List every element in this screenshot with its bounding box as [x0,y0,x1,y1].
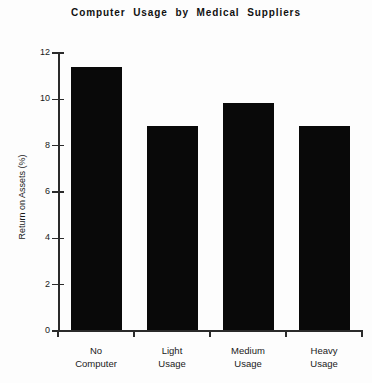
bar [223,103,274,330]
x-tick-label-line: Usage [134,358,210,371]
x-axis-line [52,330,362,332]
x-tick-label-line: Usage [210,358,286,371]
x-tick-label-line: No [58,345,134,358]
y-tick-label: 4 [10,233,50,242]
x-tick-label-group: NoComputerLightUsageMediumUsageHeavyUsag… [58,345,362,381]
y-tick-label: 10 [10,94,50,103]
x-tick [133,330,135,337]
y-tick [52,284,64,286]
y-tick-label: 0 [10,326,50,335]
y-tick [52,238,64,240]
bar [299,126,350,330]
x-tick [285,330,287,337]
y-tick [52,145,64,147]
x-tick-label-line: Heavy [286,345,362,358]
x-tick [209,330,211,337]
x-tick-label: NoComputer [58,345,134,370]
bar [147,126,198,330]
y-tick [52,52,64,54]
x-tick [57,330,59,337]
y-tick [52,191,64,193]
bar [71,67,122,330]
chart-figure: Computer Usage by Medical Suppliers Retu… [0,0,372,383]
x-tick-label-line: Medium [210,345,286,358]
x-tick-label-line: Usage [286,358,362,371]
x-tick-label: MediumUsage [210,345,286,370]
x-tick-label-line: Computer [58,358,134,371]
y-tick-label: 8 [10,141,50,150]
chart-title: Computer Usage by Medical Suppliers [0,7,372,18]
y-tick-label: 6 [10,187,50,196]
plot-area [58,53,362,331]
x-tick-label: LightUsage [134,345,210,370]
y-tick [52,99,64,101]
x-tick-label-line: Light [134,345,210,358]
x-tick-label: HeavyUsage [286,345,362,370]
y-tick-label: 12 [10,48,50,57]
x-tick [361,330,363,337]
y-tick-label: 2 [10,280,50,289]
